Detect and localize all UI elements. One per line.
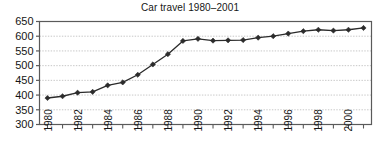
data-point-1993 bbox=[241, 37, 246, 42]
x-tick-label-2000: 2000 bbox=[343, 109, 354, 132]
x-tick-label-1990: 1990 bbox=[193, 109, 204, 132]
x-tick-label-1988: 1988 bbox=[163, 109, 174, 132]
x-tick-label-1992: 1992 bbox=[223, 109, 234, 132]
data-point-1996 bbox=[286, 31, 291, 36]
data-point-1999 bbox=[331, 28, 336, 33]
y-tick-label-550: 550 bbox=[15, 45, 33, 57]
x-tick-label-1996: 1996 bbox=[283, 109, 294, 132]
data-point-1997 bbox=[301, 29, 306, 34]
series-line-car-travel bbox=[48, 28, 364, 98]
y-tick-label-300: 300 bbox=[15, 118, 33, 130]
y-tick-label-600: 600 bbox=[15, 30, 33, 42]
y-tick-label-650: 650 bbox=[15, 15, 33, 27]
data-point-1992 bbox=[225, 38, 230, 43]
chart-container: Car travel 1980–2001 3003504004505005506… bbox=[0, 0, 380, 163]
x-tick-label-1998: 1998 bbox=[313, 109, 324, 132]
plot-frame-rect bbox=[40, 22, 372, 125]
data-point-1983 bbox=[90, 89, 95, 94]
y-tick-label-450: 450 bbox=[15, 74, 33, 86]
line-chart-plot: 300350400450500550600650 198019821984198… bbox=[0, 0, 380, 163]
x-tick-label-1982: 1982 bbox=[73, 109, 84, 132]
x-tick-label-1994: 1994 bbox=[253, 109, 264, 132]
y-tick-label-400: 400 bbox=[15, 89, 33, 101]
x-tick-label-1980: 1980 bbox=[43, 109, 54, 132]
data-point-1998 bbox=[316, 27, 321, 32]
data-series-markers bbox=[45, 25, 366, 100]
data-point-1991 bbox=[210, 38, 215, 43]
data-series-line bbox=[48, 28, 364, 98]
x-tick-label-1986: 1986 bbox=[133, 109, 144, 132]
plot-frame bbox=[40, 22, 372, 125]
y-tick-label-350: 350 bbox=[15, 104, 33, 116]
data-point-2001 bbox=[361, 25, 366, 30]
x-tick-label-1984: 1984 bbox=[103, 109, 114, 132]
data-point-1995 bbox=[271, 34, 276, 39]
x-axis-tick-labels: 1980198219841986198819901992199419961998… bbox=[43, 109, 355, 132]
data-point-1990 bbox=[195, 36, 200, 41]
y-tick-label-500: 500 bbox=[15, 59, 33, 71]
data-point-1980 bbox=[45, 95, 50, 100]
data-point-1981 bbox=[60, 94, 65, 99]
y-axis-tick-labels: 300350400450500550600650 bbox=[15, 15, 33, 130]
data-point-1984 bbox=[105, 83, 110, 88]
data-point-1982 bbox=[75, 90, 80, 95]
data-point-2000 bbox=[346, 27, 351, 32]
